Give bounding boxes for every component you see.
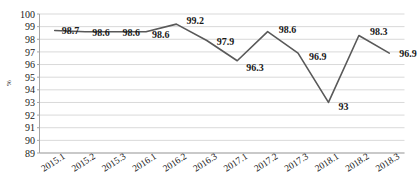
y-tick-label: 96 <box>25 59 35 70</box>
y-axis-title: % <box>5 74 13 92</box>
chart-canvas: 1009998979695949392919089 2015.12015.220… <box>0 0 419 187</box>
data-point-label: 98.6 <box>123 27 140 38</box>
x-tick-label: 2016.3 <box>191 151 219 174</box>
data-point-label: 96.3 <box>246 62 263 73</box>
data-point-label: 98.7 <box>62 25 79 36</box>
x-tick-label: 2017.3 <box>283 151 311 174</box>
y-tick-label: 90 <box>25 135 35 146</box>
y-tick-label: 97 <box>25 47 35 58</box>
x-tick-label: 2016.1 <box>131 151 159 174</box>
y-tick-label: 98 <box>25 34 35 45</box>
data-point-label: 97.9 <box>217 36 235 47</box>
data-point-label: 98.3 <box>370 26 388 37</box>
y-axis-tick-labels: 1009998979695949392919089 <box>20 9 35 159</box>
x-tick-label: 2018.1 <box>313 151 341 174</box>
data-point-labels: 98.798.698.698.699.297.996.398.696.99398… <box>62 15 417 112</box>
y-tick-label: 100 <box>20 9 35 20</box>
line-chart: 1009998979695949392919089 2015.12015.220… <box>0 0 419 187</box>
data-point-label: 98.6 <box>152 29 170 40</box>
data-point-label: 98.6 <box>279 24 297 35</box>
data-point-label: 98.6 <box>92 27 110 38</box>
data-point-label: 99.2 <box>186 15 204 26</box>
y-tick-label: 89 <box>25 148 35 159</box>
data-point-label: 96.9 <box>399 48 417 59</box>
y-tick-label: 99 <box>25 21 35 32</box>
x-axis-tick-labels: 2015.12015.22015.32016.12016.22016.32017… <box>39 151 401 174</box>
x-tick-label: 2016.2 <box>161 151 189 174</box>
y-tick-label: 91 <box>25 122 35 133</box>
x-tick-label: 2018.3 <box>374 151 402 174</box>
y-tick-label: 94 <box>25 84 35 95</box>
y-tick-label: 92 <box>25 110 35 121</box>
y-tick-label: 93 <box>25 97 35 108</box>
x-tick-label: 2015.2 <box>70 151 98 174</box>
data-point-label: 93 <box>338 101 348 112</box>
y-tick-label: 95 <box>25 72 35 83</box>
x-tick-label: 2018.2 <box>344 151 372 174</box>
data-point-label: 96.9 <box>309 51 327 62</box>
x-tick-label: 2017.2 <box>252 151 280 174</box>
x-tick-label: 2015.1 <box>39 151 67 174</box>
x-tick-label: 2015.3 <box>100 151 128 174</box>
x-tick-label: 2017.1 <box>222 151 250 174</box>
